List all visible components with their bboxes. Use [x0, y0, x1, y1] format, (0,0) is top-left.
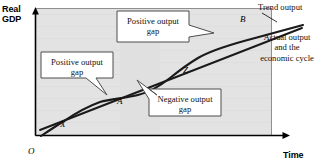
y-axis-label: Real GDP [2, 4, 32, 24]
callout-text-positive-1: Positive output gap [44, 57, 110, 78]
trend-output-annotation: Trend output [258, 3, 302, 13]
point-label-b: B [240, 14, 246, 24]
origin-label: O [28, 146, 35, 156]
callout-text-negative-1: Negative output gap [152, 94, 218, 115]
point-label-x: X [60, 119, 66, 129]
business-cycle-diagram: Real GDP Time O X A Z B Trend output Act… [0, 0, 324, 168]
x-axis-label: Time [283, 150, 303, 160]
actual-output-annotation: Actual output and the economic cycle [252, 32, 322, 63]
point-label-a: A [117, 96, 123, 106]
point-label-z: Z [183, 65, 188, 75]
callout-text-positive-2: Positive output gap [120, 16, 186, 37]
